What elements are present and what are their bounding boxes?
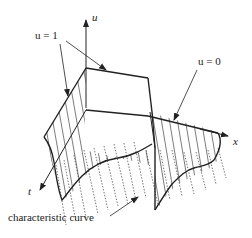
u-axis-label: u — [92, 12, 98, 23]
characteristic-curve-label: characteristic curve — [8, 212, 94, 223]
u-equals-1-label: u = 1 — [35, 30, 58, 41]
x-axis-label: x — [233, 136, 238, 147]
surface-outline — [44, 68, 220, 210]
pointer-u1-left — [60, 44, 68, 96]
u-equals-0-label: u = 0 — [198, 56, 221, 67]
t-axis-label: t — [28, 186, 31, 197]
pointer-u0 — [174, 70, 197, 120]
x-axis — [200, 129, 228, 136]
pointer-characteristic — [110, 197, 138, 216]
diagram-canvas: u u = 1 u = 0 x t characteristic curve — [0, 0, 252, 238]
